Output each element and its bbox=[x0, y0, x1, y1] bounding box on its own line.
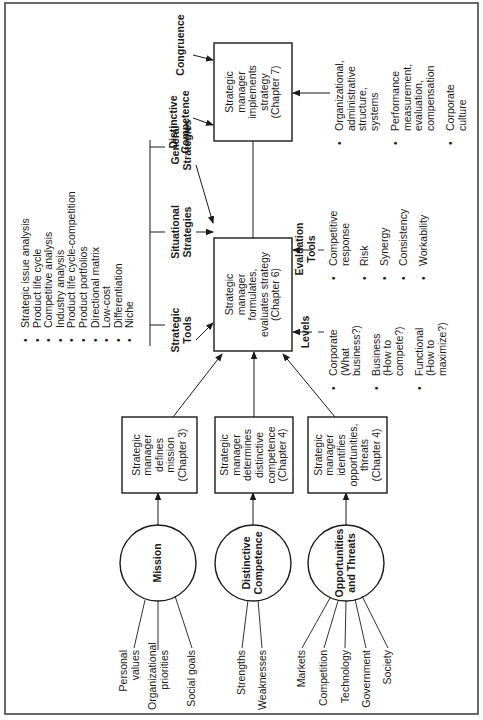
list-item: Strategic issue analysis bbox=[20, 191, 32, 342]
strategic-tools-list: Strategic issue analysis Product life cy… bbox=[20, 191, 136, 342]
levels-label: Levels bbox=[300, 307, 312, 357]
distinctive-competence-input-label: DistinctiveCompetence bbox=[168, 84, 191, 160]
implementation-factors-list: Organizational,administrativestructure,s… bbox=[334, 60, 386, 145]
list-item: Corporate(Whatbusiness?) bbox=[328, 322, 363, 390]
distinctive-competence-label: DistinctiveCompetence bbox=[215, 525, 291, 601]
box-identifies-opportunities-text: Strategicmanageridentifiesopportunities,… bbox=[308, 417, 387, 493]
strategic-management-diagram: Personal values Organizational prioritie… bbox=[0, 0, 483, 720]
strategic-tools-label: StrategicTools bbox=[170, 300, 193, 360]
list-item: Niche bbox=[124, 191, 136, 342]
situational-strategies-label: SituationalStrategies bbox=[170, 199, 193, 265]
input-organizational-priorities: Organizational priorities bbox=[147, 650, 170, 710]
box-determines-competence-text: Strategicmanagerdeterminesdistinctivecom… bbox=[215, 417, 293, 493]
input-social-goals: Social goals bbox=[186, 650, 198, 710]
input-government: Government bbox=[361, 650, 373, 710]
implementation-factors-list-3: Corporateculture bbox=[445, 84, 468, 145]
implementation-factors-list-2: Performancemeasurement,evaluation,compen… bbox=[390, 64, 436, 145]
list-item: Risk bbox=[359, 209, 371, 280]
opportunities-threats-label: Opportunitiesand Threats bbox=[308, 525, 384, 601]
list-item: Synergy bbox=[379, 209, 391, 280]
congruence-label: Congruence bbox=[175, 10, 187, 80]
mission-label: Mission bbox=[120, 525, 196, 601]
list-item: Low-cost bbox=[101, 191, 113, 342]
box-defines-mission-text: Strategicmanagerdefinesmission(Chapter 3… bbox=[122, 417, 197, 493]
list-item: Workability bbox=[418, 209, 430, 280]
box-formulates-strategy-text: Strategicmanagerformulates,evaluates str… bbox=[214, 238, 292, 351]
input-technology: Technology bbox=[340, 650, 352, 710]
list-item: Organizational,administrativestructure,s… bbox=[334, 60, 380, 145]
evaluation-tools-label: EvaluationTools bbox=[294, 216, 317, 282]
list-item: Consistency bbox=[398, 209, 410, 280]
input-strengths: Strengths bbox=[236, 650, 248, 710]
input-personal-values: Personal values bbox=[118, 650, 141, 702]
list-item: Performancemeasurement,evaluation,compen… bbox=[390, 64, 436, 145]
list-item: Functional(How tomaximize?) bbox=[414, 322, 449, 390]
levels-list: Corporate(Whatbusiness?) Business(How to… bbox=[328, 322, 448, 390]
evaluation-tools-list: Competitiveresponse Risk Synergy Consist… bbox=[328, 209, 430, 280]
list-item: Competitiveresponse bbox=[328, 209, 351, 280]
list-item: Product portfolios bbox=[78, 191, 90, 342]
input-competition: Competition bbox=[318, 650, 330, 710]
list-item: Business(How tocompete?) bbox=[371, 322, 406, 390]
input-markets: Markets bbox=[296, 650, 308, 710]
list-item: Corporateculture bbox=[445, 84, 468, 145]
input-society: Society bbox=[382, 650, 394, 710]
box-implements-strategy-text: Strategicmanagerimplementsstrategy(Chapt… bbox=[214, 43, 292, 141]
input-weaknesses: Weaknesses bbox=[257, 650, 269, 710]
